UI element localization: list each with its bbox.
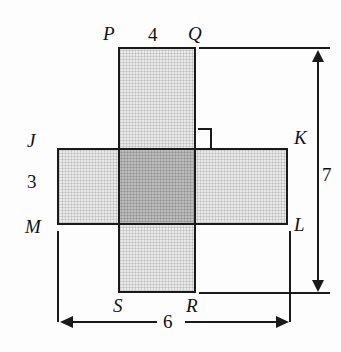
vertex-label-s: S [113,296,123,315]
vertex-label-q: Q [188,24,202,43]
dimension-line-width-right [185,321,277,323]
vertex-label-r: R [186,296,198,315]
vertex-label-j: J [27,131,35,150]
extension-line-top [199,47,330,49]
dimension-label-total-height: 7 [322,165,332,184]
arrow-up-icon [312,50,324,62]
vertex-label-m: M [25,217,41,236]
horizontal-rectangle-outline [57,148,288,225]
geometry-figure: P Q J K M L S R 4 3 7 6 [0,0,341,352]
right-angle-icon [198,128,212,148]
dimension-line-width-left [72,321,157,323]
dimension-label-total-width: 6 [163,312,173,331]
vertex-label-p: P [103,24,115,43]
vertex-label-l: L [294,215,305,234]
dimension-line-height [317,52,319,290]
arrow-right-icon [276,316,289,328]
vertex-label-k: K [294,128,307,147]
extension-tick-right [289,231,291,322]
extension-line-bottom [199,292,330,294]
arrow-left-icon [60,316,73,328]
extension-tick-left [57,231,59,322]
dimension-label-left-height: 3 [27,172,37,191]
dimension-label-top-width: 4 [148,25,158,44]
arrow-down-icon [312,280,324,292]
